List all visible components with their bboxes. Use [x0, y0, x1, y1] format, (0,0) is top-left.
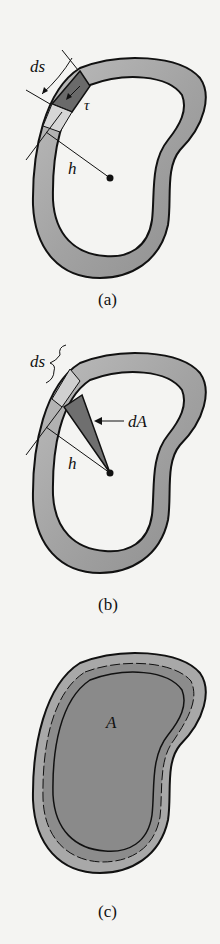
label-h: h: [68, 454, 77, 473]
ds-dim-line-2: [26, 90, 50, 104]
center-point: [107, 470, 114, 477]
panel-b: ds dA h (b): [26, 345, 206, 614]
label-ds: ds: [30, 352, 46, 371]
panel-c: A (c): [33, 653, 206, 921]
label-h: h: [68, 159, 77, 178]
center-point: [107, 175, 114, 182]
label-A: A: [105, 713, 117, 732]
panel-a: ds τ h (a): [26, 50, 206, 309]
arrow-head-icon: [42, 87, 48, 94]
caption-c: (c): [98, 902, 117, 921]
label-ds: ds: [30, 57, 46, 76]
caption-b: (b): [98, 595, 118, 614]
diagram-canvas: ds τ h (a) ds dA h (b) A (c): [0, 0, 220, 944]
ds-dim-line-1: [62, 50, 78, 70]
label-tau: τ: [84, 97, 90, 113]
caption-a: (a): [98, 290, 117, 309]
label-dA: dA: [128, 412, 148, 431]
